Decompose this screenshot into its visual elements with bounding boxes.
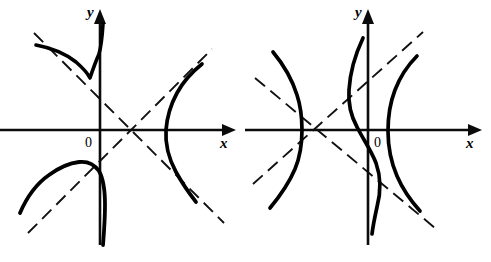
right-panel-asymptote-rising xyxy=(253,32,423,184)
left-panel: x y 0 xyxy=(0,0,245,262)
left-panel-asymptote-falling xyxy=(34,33,224,223)
left-panel-branch-upper-left xyxy=(36,24,103,78)
left-panel-y-axis-label: y xyxy=(85,4,94,20)
left-panel-x-axis-label: x xyxy=(219,135,228,151)
left-panel-y-axis-arrowhead xyxy=(94,9,106,24)
right-panel-y-axis-arrowhead xyxy=(362,9,374,24)
left-panel-canvas: x y 0 xyxy=(0,0,245,262)
left-panel-asymptote-rising xyxy=(28,49,212,233)
right-panel-canvas: x y 0 xyxy=(245,0,491,262)
left-panel-origin-label: 0 xyxy=(85,135,92,150)
left-panel-branch-right xyxy=(166,64,202,202)
right-panel-y-axis-label: y xyxy=(353,4,362,20)
right-panel-branch-right xyxy=(388,56,420,211)
right-panel-origin-label: 0 xyxy=(374,135,381,150)
left-panel-branch-lower-left xyxy=(20,162,105,245)
right-panel-x-axis-label: x xyxy=(465,135,474,151)
figure-root: x y 0 x y 0 xyxy=(0,0,491,262)
right-panel: x y 0 xyxy=(245,0,491,262)
